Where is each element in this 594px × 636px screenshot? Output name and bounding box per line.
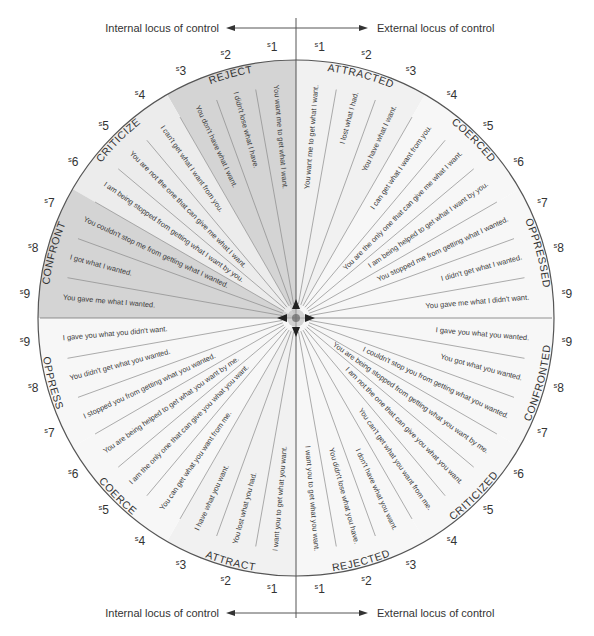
step-label-s4: s4 (447, 534, 458, 548)
step-label-s8: s8 (28, 381, 39, 395)
step-label-s2: s2 (361, 574, 372, 588)
step-label-s4: s4 (447, 88, 458, 102)
step-label-s9: s9 (20, 287, 31, 301)
step-label-s4: s4 (135, 88, 146, 102)
step-label-s7: s7 (44, 196, 55, 210)
axis-label-top-left: Internal locus of control (105, 22, 219, 34)
axis-label-top-right: External locus of control (377, 22, 494, 34)
step-label-s3: s3 (176, 64, 187, 78)
axis-label-bottom-right: External locus of control (377, 607, 494, 619)
step-label-s3: s3 (176, 558, 187, 572)
step-label-s3: s3 (406, 558, 417, 572)
step-label-s3: s3 (406, 64, 417, 78)
step-label-s7: s7 (537, 196, 548, 210)
step-label-s7: s7 (537, 426, 548, 440)
step-label-s9: s9 (562, 287, 573, 301)
step-label-s4: s4 (135, 534, 146, 548)
step-label-s2: s2 (220, 48, 231, 62)
step-label-s9: s9 (562, 335, 573, 349)
step-label-s1: s1 (267, 40, 278, 54)
step-label-s5: s5 (483, 119, 494, 133)
step-label-s8: s8 (554, 381, 565, 395)
step-label-s8: s8 (554, 241, 565, 255)
step-label-s2: s2 (361, 48, 372, 62)
arrow-right-icon (359, 610, 368, 616)
step-label-s1: s1 (267, 582, 278, 596)
step-label-s9: s9 (20, 335, 31, 349)
step-label-s1: s1 (314, 582, 325, 596)
locus-of-control-wheel: You want me to get what I want.I didn't … (0, 0, 594, 636)
step-label-s6: s6 (68, 467, 79, 481)
axis-label-bottom-left: Internal locus of control (105, 607, 219, 619)
step-label-s5: s5 (98, 503, 109, 517)
step-label-s6: s6 (68, 155, 79, 169)
step-label-s8: s8 (28, 241, 39, 255)
step-label-s2: s2 (220, 574, 231, 588)
step-label-s5: s5 (98, 119, 109, 133)
step-label-s1: s1 (314, 40, 325, 54)
step-label-s6: s6 (514, 467, 525, 481)
step-label-s5: s5 (483, 503, 494, 517)
step-label-s6: s6 (514, 155, 525, 169)
arrow-right-icon (359, 25, 368, 31)
step-label-s7: s7 (44, 426, 55, 440)
arrow-left-icon (226, 610, 235, 616)
arrow-left-icon (226, 25, 235, 31)
